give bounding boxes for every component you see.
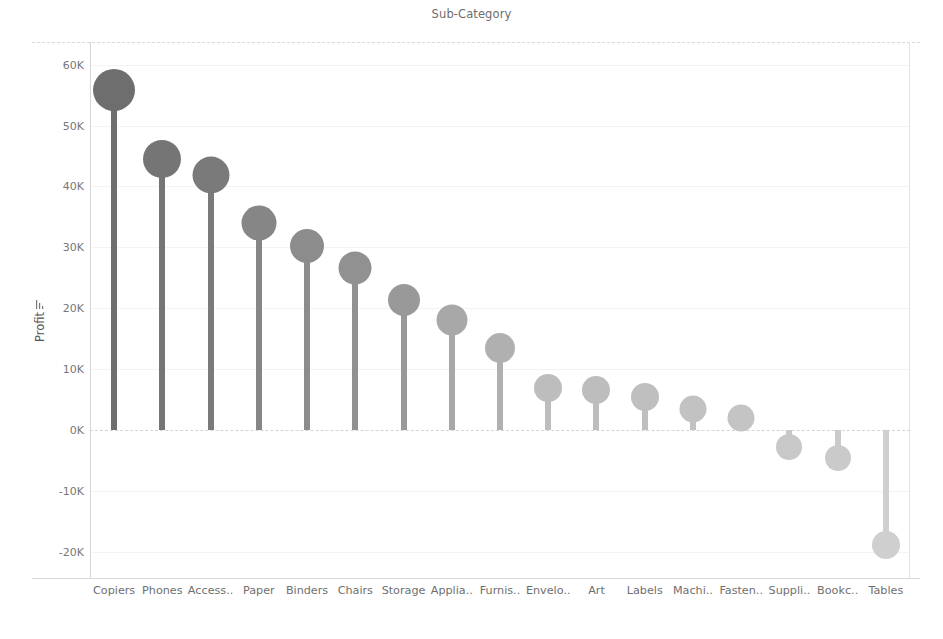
lollipop-dot[interactable]	[631, 383, 659, 411]
x-axis-label: Applia..	[431, 584, 473, 597]
x-axis-label: Paper	[243, 584, 275, 597]
x-axis-label: Suppli..	[769, 584, 811, 597]
x-axis-label: Phones	[142, 584, 182, 597]
y-axis-tick-label: 20K	[30, 302, 84, 315]
lollipop-stem	[111, 109, 117, 430]
x-axis-labels: CopiersPhonesAccess..PaperBindersChairsS…	[90, 580, 910, 606]
y-axis-tick-label: -10K	[30, 484, 84, 497]
lollipop-series	[90, 0, 910, 639]
lollipop-stem	[352, 283, 358, 430]
x-axis-label: Envelo..	[526, 584, 571, 597]
x-axis-label: Copiers	[93, 584, 135, 597]
lollipop-stem	[256, 238, 262, 430]
lollipop-dot[interactable]	[143, 140, 181, 178]
lollipop-dot[interactable]	[388, 284, 420, 316]
x-axis-label: Tables	[868, 584, 903, 597]
lollipop-dot[interactable]	[290, 229, 324, 263]
y-axis-tick-label: 40K	[30, 180, 84, 193]
x-axis-label: Binders	[286, 584, 328, 597]
y-axis-tick-label: -20K	[30, 545, 84, 558]
lollipop-dot[interactable]	[192, 156, 229, 193]
lollipop-stem	[545, 400, 551, 430]
lollipop-stem	[208, 191, 214, 430]
lollipop-dot[interactable]	[436, 304, 467, 335]
x-axis-label: Bookc..	[817, 584, 858, 597]
lollipop-dot[interactable]	[679, 396, 706, 423]
lollipop-stem	[497, 361, 503, 430]
x-axis-label: Access..	[188, 584, 233, 597]
lollipop-dot[interactable]	[776, 434, 802, 460]
x-axis-label: Machi..	[673, 584, 713, 597]
y-axis-tick-label: 10K	[30, 363, 84, 376]
lollipop-stem	[642, 409, 648, 430]
lollipop-dot[interactable]	[728, 404, 755, 431]
lollipop-stem	[401, 314, 407, 430]
x-axis-label: Furnis..	[480, 584, 520, 597]
lollipop-dot[interactable]	[872, 531, 900, 559]
lollipop-dot[interactable]	[825, 445, 851, 471]
lollipop-dot[interactable]	[485, 333, 515, 363]
lollipop-dot[interactable]	[534, 374, 562, 402]
lollipop-stem	[593, 402, 599, 430]
y-axis-tick-label: 0K	[30, 424, 84, 437]
lollipop-dot[interactable]	[582, 376, 610, 404]
x-axis-label: Storage	[382, 584, 426, 597]
lollipop-stem	[304, 261, 310, 430]
lollipop-dot[interactable]	[339, 252, 372, 285]
x-axis-label: Chairs	[338, 584, 373, 597]
lollipop-stem	[883, 430, 889, 533]
lollipop-chart: Sub-Category Profit 60K50K40K30K20K10K0K…	[0, 0, 943, 639]
lollipop-dot[interactable]	[241, 205, 276, 240]
lollipop-stem	[159, 176, 165, 430]
y-axis-ticks: 60K50K40K30K20K10K0K-10K-20K	[24, 0, 84, 639]
x-axis-label: Fasten..	[719, 584, 763, 597]
x-axis-label: Labels	[627, 584, 663, 597]
x-axis-label: Art	[588, 584, 605, 597]
y-axis-tick-label: 60K	[30, 58, 84, 71]
lollipop-dot[interactable]	[93, 69, 135, 111]
y-axis-tick-label: 50K	[30, 119, 84, 132]
y-axis-tick-label: 30K	[30, 241, 84, 254]
lollipop-stem	[449, 333, 455, 430]
